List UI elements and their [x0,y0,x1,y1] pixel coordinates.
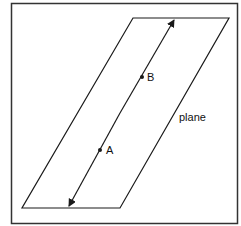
point-b-label: B [147,71,154,83]
line-through-a-b [120,20,174,113]
point-a-label: A [106,144,114,156]
line-through-a-b-lower [69,113,120,206]
point-a-dot [98,148,102,152]
point-b-dot [140,75,144,79]
plane-label: plane [179,111,206,123]
diagram-canvas: B A plane [0,0,241,226]
